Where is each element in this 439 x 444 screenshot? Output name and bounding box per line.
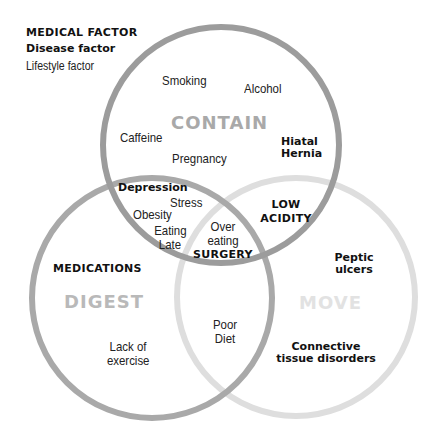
factor-lack-of-exercise-line1: Lack of bbox=[107, 340, 149, 354]
factor-surgery: SURGERY bbox=[193, 249, 253, 261]
factor-lack-of-exercise: Lack of exercise bbox=[107, 340, 149, 367]
factor-eating-late-line1: Eating bbox=[154, 224, 186, 238]
factor-depression: Depression bbox=[118, 182, 188, 194]
factor-hiatal-hernia-line1: Hiatal bbox=[281, 136, 322, 148]
factor-peptic-ulcers: Peptic ulcers bbox=[330, 252, 378, 275]
factor-stress: Stress bbox=[170, 196, 202, 210]
factor-poor-diet: Poor Diet bbox=[209, 318, 241, 345]
region-label-contain: CONTAIN bbox=[171, 114, 268, 133]
factor-over-eating: Over eating bbox=[207, 220, 239, 247]
factor-poor-diet-line2: Diet bbox=[209, 332, 241, 346]
factor-obesity: Obesity bbox=[133, 208, 172, 222]
legend-lifestyle-factor: Lifestyle factor bbox=[26, 60, 94, 73]
factor-low-acidity-line2: ACIDITY bbox=[256, 213, 316, 225]
factor-hiatal-hernia-line2: Hernia bbox=[281, 148, 322, 160]
factor-eating-late-line2: Late bbox=[154, 238, 186, 252]
factor-over-eating-line1: Over bbox=[207, 220, 239, 234]
factor-hiatal-hernia: Hiatal Hernia bbox=[281, 136, 322, 159]
factor-smoking: Smoking bbox=[162, 74, 207, 88]
factor-poor-diet-line1: Poor bbox=[209, 318, 241, 332]
factor-alcohol: Alcohol bbox=[244, 82, 282, 96]
factor-pregnancy: Pregnancy bbox=[172, 152, 227, 166]
legend-disease-factor: Disease factor bbox=[26, 43, 115, 55]
factor-connective-tissue-line2: tissue disorders bbox=[272, 353, 380, 365]
factor-caffeine: Caffeine bbox=[120, 131, 162, 145]
region-label-digest: DIGEST bbox=[64, 293, 144, 312]
factor-peptic-ulcers-line2: ulcers bbox=[330, 264, 378, 276]
factor-low-acidity-line1: LOW bbox=[256, 199, 316, 211]
factor-medications: MEDICATIONS bbox=[53, 263, 142, 275]
factor-peptic-ulcers-line1: Peptic bbox=[330, 252, 378, 264]
factor-lack-of-exercise-line2: exercise bbox=[107, 354, 149, 368]
region-label-move: MOVE bbox=[299, 294, 362, 313]
legend-medical-factor: MEDICAL FACTOR bbox=[26, 27, 137, 39]
factor-eating-late: Eating Late bbox=[154, 224, 186, 251]
factor-connective-tissue-line1: Connective bbox=[272, 341, 380, 353]
factor-over-eating-line2: eating bbox=[207, 234, 239, 248]
factor-low-acidity: LOW ACIDITY bbox=[256, 199, 316, 224]
factor-connective-tissue-disorders: Connective tissue disorders bbox=[272, 341, 380, 364]
